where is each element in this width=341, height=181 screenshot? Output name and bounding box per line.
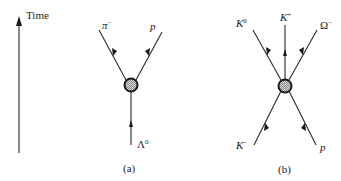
time-axis: Time	[16, 9, 49, 153]
particle-label-pi-minus: π−	[102, 19, 112, 31]
particle-label-lambda0: Λ0	[137, 138, 149, 150]
arrow-icon	[283, 49, 287, 56]
particle-label-proton: p	[149, 20, 156, 32]
particle-label-omega-minus: Ω−	[320, 19, 332, 31]
arrow-up-icon	[16, 16, 22, 26]
particle-line-k-minus	[254, 91, 281, 145]
diagram-a: π− p Λ0 (a)	[99, 19, 162, 175]
particle-line-proton-in	[289, 91, 316, 145]
diagram-caption-b: (b)	[278, 163, 291, 176]
particle-label-k-minus: K−	[235, 139, 247, 151]
particle-label-proton-in: p	[319, 141, 326, 153]
interaction-vertex	[125, 79, 138, 92]
time-axis-label: Time	[26, 9, 49, 21]
feynman-diagram-figure: Time π− p Λ0 (a) K0 K+ Ω− K− p (b)	[0, 0, 341, 181]
diagram-caption-a: (a)	[123, 162, 136, 175]
arrow-up-icon	[129, 120, 133, 127]
diagram-b: K0 K+ Ω− K− p (b)	[235, 11, 332, 176]
particle-line-pi-minus	[99, 30, 126, 80]
interaction-vertex	[279, 80, 292, 93]
particle-label-k-plus: K+	[279, 11, 291, 23]
particle-label-k0: K0	[235, 17, 247, 29]
